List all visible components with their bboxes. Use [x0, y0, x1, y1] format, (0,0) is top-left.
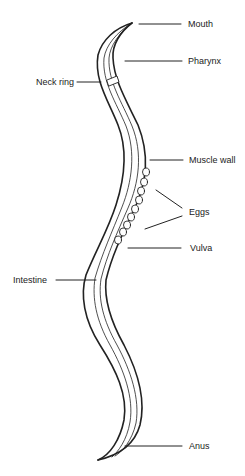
label-mouth: Mouth	[188, 19, 213, 29]
label-neck-ring: Neck ring	[36, 77, 74, 87]
label-vulva: Vulva	[190, 243, 212, 253]
worm-diagram	[0, 0, 245, 476]
eggs-cluster	[115, 168, 150, 244]
label-eggs: Eggs	[189, 207, 210, 217]
leader-eggs-bottom	[145, 216, 182, 229]
label-anus: Anus	[189, 441, 210, 451]
leader-eggs-top	[156, 190, 182, 208]
intestine-line-1	[94, 23, 132, 457]
label-pharynx: Pharynx	[188, 56, 221, 66]
label-intestine: Intestine	[13, 275, 47, 285]
label-muscle-wall: Muscle wall	[189, 155, 236, 165]
neck-ring	[107, 76, 119, 86]
